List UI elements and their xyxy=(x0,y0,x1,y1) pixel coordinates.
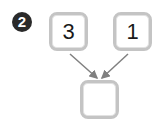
arrow-right-icon xyxy=(102,54,128,78)
answer-box[interactable] xyxy=(80,80,119,119)
arrow-left-icon xyxy=(70,54,97,78)
